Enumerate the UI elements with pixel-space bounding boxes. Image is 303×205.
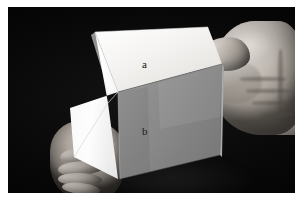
paper-cube [8,7,295,193]
face-label-a: a [142,59,147,70]
photograph [8,7,295,193]
face-label-b: b [142,126,148,137]
figure-page: a b [0,0,303,205]
